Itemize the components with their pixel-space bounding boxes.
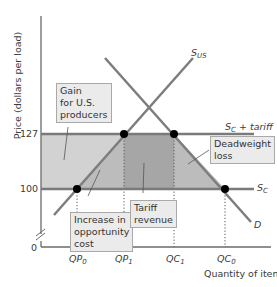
y-tick-127: 127 [20, 129, 38, 139]
x-tick-qp1: QP1 [115, 254, 133, 266]
sc-label: SC [257, 183, 268, 195]
tariff-revenue-box: Tariffrevenue [130, 200, 177, 228]
x-axis-label: Quantity of items [204, 269, 277, 279]
x-tick-qc1: QC1 [166, 254, 185, 266]
opportunity-cost-box: Increase inopportunitycost [70, 212, 133, 252]
y-tick-100: 100 [20, 184, 38, 194]
deadweight-loss-box: Deadweightloss [210, 136, 275, 164]
x-tick-qc0: QC0 [217, 254, 236, 266]
gain-for-producers-box: Gainfor U.S.producers [56, 83, 112, 123]
y-tick-0: 0 [31, 243, 37, 253]
sus-label: SUS [191, 48, 207, 60]
y-axis-label: Price (dollars per load) [12, 31, 23, 141]
x-tick-qp0: QP0 [69, 254, 87, 266]
sc-tariff-label: SC + tariff [225, 122, 273, 134]
demand-label: D [254, 220, 261, 230]
tariff-revenue-area [124, 134, 174, 189]
